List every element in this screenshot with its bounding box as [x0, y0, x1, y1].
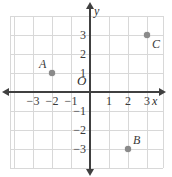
y-axis-arrow-up — [86, 2, 94, 9]
data-point-b[interactable] — [125, 146, 131, 152]
data-point-label-a: A — [39, 58, 46, 70]
gridline-horizontal — [10, 73, 163, 74]
x-axis — [8, 91, 160, 92]
gridline-horizontal — [10, 54, 163, 55]
x-axis-tick-label: −2 — [42, 95, 62, 107]
gridline-horizontal — [10, 111, 163, 112]
x-axis-tick-label: 1 — [99, 95, 119, 107]
gridline-horizontal — [10, 130, 163, 131]
y-axis-name: y — [94, 5, 99, 17]
y-axis — [89, 8, 90, 170]
coordinate-plane: −3−2−1123321−1−2−3xyOABC — [0, 0, 172, 177]
y-axis-tick-label: 3 — [66, 29, 86, 41]
x-axis-tick-label: −3 — [23, 95, 43, 107]
origin-label: O — [77, 74, 86, 87]
x-axis-tick-label: 2 — [118, 95, 138, 107]
data-point-label-c: C — [152, 38, 160, 50]
y-axis-tick-label: −1 — [66, 105, 86, 117]
y-axis-tick-label: −2 — [66, 124, 86, 136]
gridline-horizontal — [10, 149, 163, 150]
gridline-horizontal — [10, 35, 163, 36]
x-axis-arrow-left — [2, 88, 9, 96]
x-axis-name: x — [152, 95, 157, 107]
y-axis-tick-label: 2 — [66, 48, 86, 60]
x-axis-arrow-right — [159, 88, 166, 96]
data-point-a[interactable] — [49, 70, 55, 76]
data-point-c[interactable] — [144, 32, 150, 38]
gridline-frame-top — [10, 16, 163, 17]
y-axis-tick-label: −3 — [66, 143, 86, 155]
data-point-label-b: B — [133, 134, 140, 146]
y-axis-arrow-down — [86, 169, 94, 176]
